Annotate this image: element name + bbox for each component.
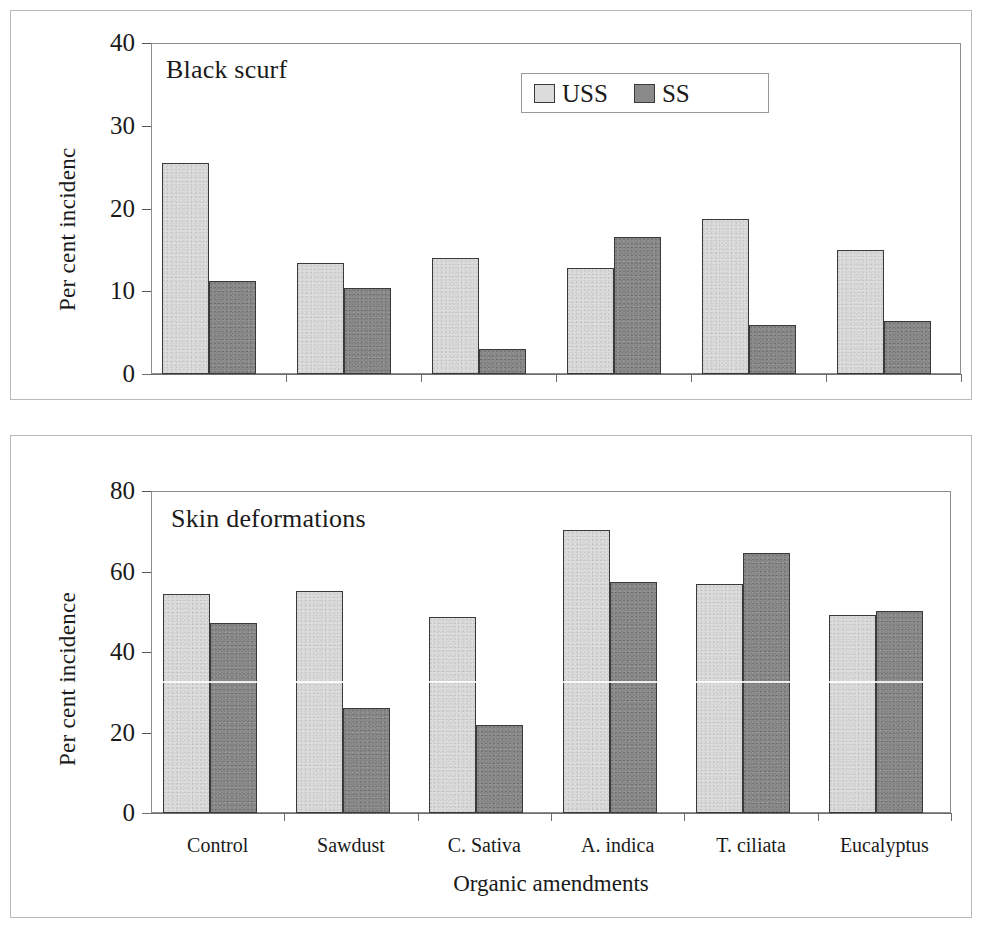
y-axis-tick-label: 20: [73, 720, 135, 745]
x-axis-tick-mark: [556, 374, 557, 382]
bar-ss-a-indica: [614, 237, 661, 374]
bar-uss-t-ciliata: [696, 584, 743, 813]
bar-ss-sawdust: [344, 288, 391, 374]
y-axis-tick-label: 30: [73, 113, 135, 138]
y-axis-tick-mark: [142, 572, 151, 573]
y-axis-tick-mark: [142, 652, 151, 653]
x-axis-tick-label-a-indica: A. indica: [551, 835, 684, 855]
bar-uss-t-ciliata: [702, 219, 749, 374]
bar-uss-a-indica: [567, 268, 614, 374]
y-axis-tick-label: 80: [73, 478, 135, 503]
x-axis-tick-mark: [418, 813, 419, 821]
x-axis-line: [142, 374, 961, 375]
plot-area-skin-deformations: Per cent incidence Skin deformations Org…: [11, 436, 971, 917]
y-axis-tick-label: 40: [73, 30, 135, 55]
x-axis-title: Organic amendments: [151, 871, 951, 897]
bar-uss-sawdust: [296, 591, 343, 813]
bar-uss-a-indica: [563, 530, 610, 813]
bar-uss-c-sativa: [429, 617, 476, 813]
bar-ss-control: [209, 281, 256, 374]
bar-ss-eucalyptus: [884, 321, 931, 374]
y-axis-tick-label: 60: [73, 559, 135, 584]
x-axis-line: [142, 813, 951, 814]
y-axis-tick-label: 10: [73, 278, 135, 303]
bar-ss-t-ciliata: [749, 325, 796, 374]
x-axis-tick-mark: [684, 813, 685, 821]
chart-panel-skin-deformations: Per cent incidence Skin deformations Org…: [10, 435, 972, 918]
x-axis-tick-mark: [951, 813, 952, 821]
x-axis-tick-mark: [551, 813, 552, 821]
x-axis-tick-label-control: Control: [151, 835, 284, 855]
plot-area-black-scurf: Per cent incidenc Black scurf USS SS 010…: [11, 11, 971, 399]
bar-uss-eucalyptus: [837, 250, 884, 374]
x-axis-tick-mark: [818, 813, 819, 821]
bar-ss-c-sativa: [479, 349, 526, 374]
x-axis-tick-label-c-sativa: C. Sativa: [418, 835, 551, 855]
bar-uss-control: [163, 594, 210, 813]
y-axis-tick-label: 0: [73, 800, 135, 825]
bar-uss-control: [162, 163, 209, 374]
x-axis-tick-mark: [284, 813, 285, 821]
x-axis-tick-mark: [286, 374, 287, 382]
y-axis-tick-mark: [142, 291, 151, 292]
x-axis-tick-label-sawdust: Sawdust: [284, 835, 417, 855]
y-axis-tick-mark: [142, 43, 151, 44]
y-axis-tick-mark: [142, 491, 151, 492]
y-axis-tick-label: 20: [73, 196, 135, 221]
bar-ss-a-indica: [610, 582, 657, 813]
x-axis-tick-label-eucalyptus: Eucalyptus: [818, 835, 951, 855]
x-axis-tick-mark: [691, 374, 692, 382]
bar-ss-sawdust: [343, 708, 390, 813]
x-axis-tick-mark: [961, 374, 962, 382]
x-axis-tick-mark: [421, 374, 422, 382]
y-axis-tick-mark: [142, 733, 151, 734]
bar-ss-eucalyptus: [876, 611, 923, 813]
y-axis-tick-mark: [142, 126, 151, 127]
x-axis-tick-mark: [826, 374, 827, 382]
chart-panel-black-scurf: Per cent incidenc Black scurf USS SS 010…: [10, 10, 972, 400]
bar-uss-c-sativa: [432, 258, 479, 374]
bar-uss-sawdust: [297, 263, 344, 374]
y-axis-tick-label: 0: [73, 361, 135, 386]
x-axis-tick-label-t-ciliata: T. ciliata: [684, 835, 817, 855]
y-axis-tick-label: 40: [73, 639, 135, 664]
y-axis-tick-mark: [142, 209, 151, 210]
bar-ss-control: [210, 623, 257, 813]
bar-ss-t-ciliata: [743, 553, 790, 813]
bar-ss-c-sativa: [476, 725, 523, 813]
bar-uss-eucalyptus: [829, 615, 876, 813]
